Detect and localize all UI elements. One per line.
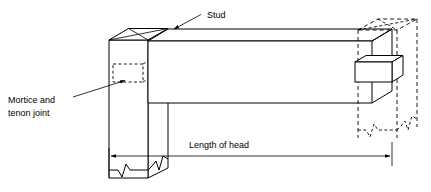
stud-annotation: Stud — [174, 10, 226, 29]
tenon-solid-block — [355, 56, 403, 83]
head-beam-front-face — [148, 41, 372, 103]
length-of-head-label: Length of head — [189, 140, 249, 150]
stud-leader-line — [174, 15, 201, 30]
tenon-front-face — [355, 62, 392, 82]
mortice-label-line1: Mortice and — [8, 95, 55, 105]
right-post-break-line-front — [358, 124, 397, 137]
right-post-break-line-side — [397, 116, 417, 130]
head-beam-top-face — [148, 29, 392, 41]
right-post-hidden-chamfer-diagonal-b — [378, 19, 397, 30]
technical-drawing-canvas: Length of head Stud Mortice and tenon jo… — [0, 0, 431, 192]
stud-label: Stud — [207, 10, 226, 20]
mortice-and-tenon-annotation: Mortice and tenon joint — [8, 81, 125, 119]
isometric-joint-figure: Length of head Stud Mortice and tenon jo… — [0, 0, 431, 192]
left-post-front-face — [109, 40, 148, 178]
mortice-label-line2: tenon joint — [8, 108, 50, 118]
